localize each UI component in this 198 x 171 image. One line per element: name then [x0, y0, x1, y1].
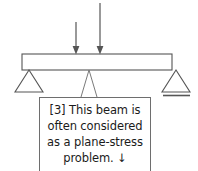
beam-diagram-figure: [3] This beam is often considered as a p…	[0, 0, 198, 171]
callout-line-4: problem. ↓	[63, 150, 127, 166]
callout-line-3: as a plane-stress	[47, 134, 143, 150]
callout-line-1: [3] This beam is	[50, 102, 141, 118]
callout-note-box: [3] This beam is often considered as a p…	[39, 97, 151, 171]
roller-support-triangle	[162, 70, 190, 92]
pin-support-triangle	[15, 70, 43, 92]
point-load-right-arrow	[97, 3, 104, 55]
beam-body	[22, 54, 172, 70]
callout-line-2: often considered	[48, 118, 143, 134]
point-load-left-arrow	[73, 22, 80, 55]
callout-leader-lines	[81, 70, 97, 97]
